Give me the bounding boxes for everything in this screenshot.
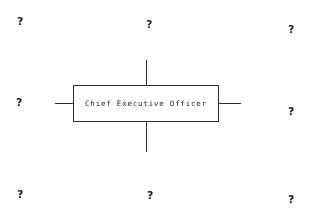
placeholder-top-left: ? [17,16,23,27]
placeholder-middle-right: ? [288,106,294,117]
placeholder-top-center: ? [146,19,152,30]
placeholder-top-right: ? [288,24,294,35]
placeholder-bottom-right: ? [288,194,294,205]
org-node-label: Chief Executive Officer [85,99,207,106]
placeholder-middle-left: ? [16,97,22,108]
connector-stub-top [146,60,147,86]
placeholder-bottom-left: ? [17,189,23,200]
connector-stub-bottom [146,121,147,152]
connector-stub-right [219,103,241,104]
connector-stub-left [55,103,74,104]
diagram-canvas: Chief Executive Officer ? ? ? ? ? ? ? ? [0,0,313,212]
placeholder-bottom-center: ? [147,190,153,201]
org-node-chief-executive-officer[interactable]: Chief Executive Officer [73,85,219,122]
